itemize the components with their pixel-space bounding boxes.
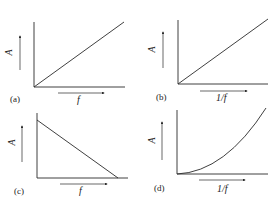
plot-line xyxy=(34,22,124,87)
panel-b-x-label: 1/f xyxy=(216,92,227,103)
panel-b-label: (b) xyxy=(156,92,167,102)
panel-c-graph xyxy=(22,113,128,184)
panel-a-label: (a) xyxy=(10,94,20,104)
panel-b-y-label: A xyxy=(146,46,157,52)
panel-b-graph xyxy=(163,19,268,91)
panel-d-x-label: 1/f xyxy=(217,183,228,194)
panel-c-x-label: f xyxy=(79,185,82,196)
plot-line xyxy=(178,19,268,84)
panel-c-label: (c) xyxy=(14,186,24,196)
panel-d-label: (d) xyxy=(154,183,165,193)
panel-c-y-label: A xyxy=(6,139,17,145)
panel-a-y-label: A xyxy=(3,49,14,55)
panel-d-graph xyxy=(162,108,268,180)
graphs-canvas xyxy=(0,0,279,203)
panel-a-graph xyxy=(20,22,125,93)
plot-curve xyxy=(177,108,266,174)
panel-a-x-label: f xyxy=(77,94,80,105)
panel-d-y-label: A xyxy=(146,137,157,143)
plot-line xyxy=(37,120,118,178)
